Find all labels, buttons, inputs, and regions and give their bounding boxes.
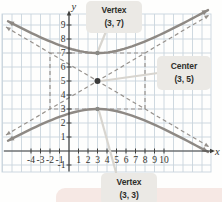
vertex-point-top [95,51,99,55]
y-tick-label: 2 [61,118,66,128]
y-tick-label: 7 [61,48,66,58]
figure-stage: -4-3-2-112345678910-1123456789xy Vertex … [0,0,222,202]
vertex-point-bottom [95,107,99,111]
center-callout: Center (3, 5) [157,56,211,90]
vertex-bottom-label: Vertex [103,176,155,189]
y-tick-label: 8 [61,34,66,44]
center-label: Center [159,60,209,73]
center-point [95,78,101,84]
y-tick-label: -1 [58,160,66,170]
asymptote-arrow [6,131,11,135]
vertex-top-coords: (3, 7) [88,17,140,30]
x-tick-label: 7 [133,155,138,165]
x-tick-label: 4 [105,155,110,165]
x-axis-letter: x [214,146,220,157]
grid-border [2,14,211,172]
asymptote-arrow [204,15,209,19]
y-axis-letter: y [71,1,77,12]
x-tick-label: 8 [143,155,148,165]
x-tick-label: 2 [86,155,91,165]
x-tick-label: 6 [124,155,129,165]
y-tick-label: 6 [61,62,66,72]
vertex-top-callout: Vertex (3, 7) [86,1,142,33]
center-coords: (3, 5) [159,73,209,86]
y-tick-label: 9 [61,20,66,30]
x-tick-label: 10 [159,155,169,165]
x-tick-label: 1 [76,155,81,165]
x-tick-label: -4 [27,155,35,165]
asymptote-arrow [6,27,11,31]
vertex-top-label: Vertex [88,4,140,17]
x-tick-label: 9 [152,155,157,165]
callout-pointer-line [99,111,117,176]
x-tick-label: -3 [37,155,45,165]
y-tick-label: 5 [61,76,66,86]
y-tick-label: 3 [61,104,66,114]
x-tick-label: -2 [46,155,54,165]
vertex-bottom-callout: Vertex (3, 3) [101,173,157,202]
y-tick-label: 1 [61,132,66,142]
vertex-bottom-coords: (3, 3) [103,189,155,202]
x-tick-label: 3 [95,155,100,165]
x-tick-label: 5 [114,155,119,165]
asymptote-arrow [204,143,209,147]
y-tick-label: 4 [61,90,66,100]
